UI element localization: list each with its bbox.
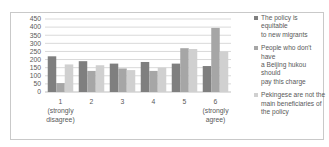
legend-label: Pekingese are not the	[261, 91, 326, 99]
x-tick-label: (strongly	[47, 107, 74, 115]
x-tick-label: disagree)	[46, 116, 74, 124]
bar-series-1	[48, 56, 57, 92]
y-tick-label: 300	[30, 40, 42, 47]
legend-label: pay this charge	[261, 78, 326, 86]
legend-label: People who don't have	[261, 44, 326, 61]
bar-series-2	[87, 71, 96, 92]
y-tick-label: 400	[30, 23, 42, 30]
legend-item: People who don't havea Beijing hukou sho…	[254, 44, 326, 86]
x-tick-label: 5	[183, 98, 187, 105]
legend-label: the policy	[261, 108, 326, 116]
y-tick-label: 200	[30, 56, 42, 63]
bar-series-1	[79, 61, 88, 92]
y-tick-label: 50	[33, 80, 41, 87]
y-tick-label: 100	[30, 72, 42, 79]
bar-series-2	[118, 68, 127, 92]
legend-swatch-icon	[254, 93, 258, 97]
bar-series-3	[96, 65, 105, 92]
legend-label: a Beijing hukou should	[261, 61, 326, 78]
bar-series-3	[158, 68, 167, 92]
legend-item: The policy is equitableto new migrants	[254, 14, 326, 39]
legend-item: Pekingese are not themain beneficiaries …	[254, 91, 326, 116]
legend-swatch-icon	[254, 46, 258, 50]
bar-series-3	[220, 51, 229, 92]
y-tick-label: 350	[30, 32, 42, 39]
legend-label: The policy is equitable	[261, 14, 326, 31]
legend-label: main beneficiaries of	[261, 100, 326, 108]
x-tick-label: 4	[152, 98, 156, 105]
x-tick-label: 2	[90, 98, 94, 105]
x-tick-label: 3	[121, 98, 125, 105]
x-tick-label: (strongly	[202, 107, 229, 115]
legend-label: to new migrants	[261, 31, 326, 39]
bar-series-3	[65, 64, 74, 92]
bar-series-2	[149, 71, 158, 92]
bar-series-1	[172, 64, 181, 92]
x-tick-label: 6	[214, 98, 218, 105]
bar-series-2	[180, 48, 189, 92]
chart-legend: The policy is equitableto new migrantsPe…	[254, 14, 326, 121]
x-tick-label: 1	[59, 98, 63, 105]
bar-series-1	[110, 64, 119, 92]
bar-series-3	[189, 49, 198, 92]
y-tick-label: 0	[37, 88, 41, 95]
bar-series-1	[203, 66, 212, 92]
bar-series-2	[211, 28, 220, 92]
legend-swatch-icon	[254, 16, 258, 20]
bar-series-3	[127, 70, 136, 92]
y-tick-label: 150	[30, 64, 42, 71]
bar-series-2	[56, 83, 65, 92]
y-tick-label: 250	[30, 48, 42, 55]
x-tick-label: agree)	[206, 116, 226, 124]
bar-series-1	[141, 62, 150, 92]
y-tick-label: 450	[30, 15, 42, 22]
